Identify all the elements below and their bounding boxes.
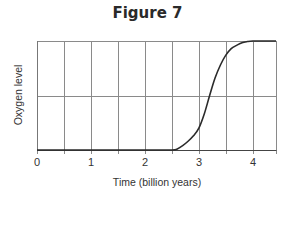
y-axis-label: Oxygen level (12, 65, 24, 126)
grid-lines (37, 41, 277, 154)
oxygen-curve (37, 41, 276, 150)
x-tick-label-1: 1 (88, 156, 94, 168)
axes (37, 41, 277, 151)
x-tick-label-2: 2 (142, 156, 148, 168)
x-tick-label-0: 0 (34, 156, 40, 168)
x-tick-label-3: 3 (196, 156, 202, 168)
x-tick-label-4: 4 (250, 156, 256, 168)
x-axis-label: Time (billion years) (113, 176, 201, 188)
